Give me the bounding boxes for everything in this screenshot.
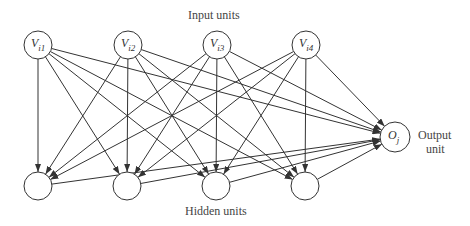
hidden-unit-1 [24, 172, 52, 200]
input-units-label: Input units [188, 8, 240, 23]
hidden-unit-3 [202, 172, 230, 200]
output-unit: Oj [380, 122, 410, 152]
connection-edge [305, 59, 306, 172]
input-unit-3: Vi3 [203, 31, 231, 59]
network-diagram: Vi1Vi2Vi3Vi4Oj [0, 0, 470, 226]
hidden-unit-4 [291, 172, 319, 200]
hidden-unit-2 [113, 172, 141, 200]
output-unit-label-line1: Output [418, 128, 451, 143]
hidden-units-label: Hidden units [185, 204, 247, 219]
input-unit-2: Vi2 [114, 31, 142, 59]
connection-edge [316, 55, 385, 126]
input-unit-1: Vi1 [24, 31, 52, 59]
connection-edge [141, 50, 381, 133]
input-unit-4: Vi4 [292, 31, 320, 59]
output-unit-label-line2: unit [426, 142, 445, 157]
